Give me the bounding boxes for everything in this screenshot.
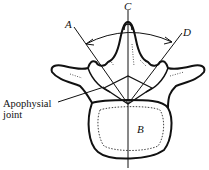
label-D: D: [183, 27, 191, 38]
label-A: A: [65, 19, 72, 30]
apophysial-joint-label: Apophysial joint: [3, 98, 51, 120]
apophysial-leader: [58, 87, 104, 102]
texture-dots: [70, 44, 184, 78]
vertebral-body: [89, 100, 172, 159]
angle-arc: [86, 32, 172, 44]
right-articular-process: [146, 68, 168, 92]
apophysial-joint-label-line2: joint: [3, 109, 51, 120]
label-B: B: [137, 124, 144, 135]
body-inner-outline: [98, 107, 164, 151]
label-C: C: [124, 1, 131, 12]
vertebra-diagram: [0, 0, 209, 170]
apophysial-joint-label-line1: Apophysial: [3, 98, 51, 109]
